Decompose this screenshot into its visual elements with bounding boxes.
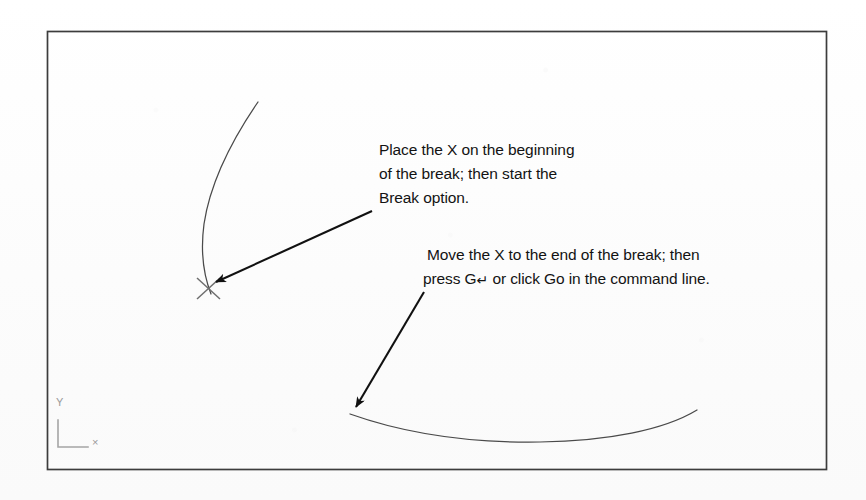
ucs-x-axis-label: × — [92, 436, 98, 448]
upper-broken-arc — [202, 102, 258, 294]
callout-break-start: Place the X on the beginning of the brea… — [379, 138, 574, 210]
lower-broken-arc — [350, 410, 697, 442]
callout-break-end-line-2: press G↵ or click Go in the command line… — [423, 267, 710, 291]
leader-to-lower-arc — [356, 292, 424, 407]
leader-to-x-marker — [216, 211, 372, 282]
callout-break-end: Move the X to the end of the break; then… — [427, 243, 710, 291]
callout-break-start-line-3: Break option. — [379, 186, 574, 210]
callout-break-end-line-1: Move the X to the end of the break; then — [427, 243, 710, 267]
ucs-axis-icon — [58, 420, 88, 447]
callout-break-start-line-1: Place the X on the beginning — [379, 138, 574, 162]
callout-break-end-line-2-suffix: or click Go in the command line. — [488, 270, 710, 287]
enter-key-icon: ↵ — [477, 268, 489, 292]
figure-root: Y × Place the X on the beginning of the … — [0, 0, 866, 500]
callout-break-end-line-2-prefix: press G — [423, 270, 477, 287]
ucs-y-axis-label: Y — [56, 396, 63, 408]
callout-break-start-line-2: of the break; then start the — [379, 162, 574, 186]
